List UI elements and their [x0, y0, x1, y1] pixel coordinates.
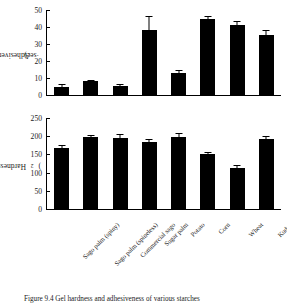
- adhesiveness-y-tick-mark: [46, 44, 50, 45]
- x-axis-label-corn: Corn: [217, 221, 231, 235]
- error-bar-cap: [87, 80, 94, 81]
- bar-sago-palm-spineless: [83, 137, 98, 209]
- adhesiveness-y-tick-mark: [46, 10, 50, 11]
- adhesiveness-bar-group: [47, 10, 281, 95]
- hardness-y-tick-mark: [46, 118, 50, 119]
- bar-cell: [78, 10, 104, 95]
- bar-sago-palm-spiny: [54, 87, 69, 96]
- bar-cell: [78, 118, 104, 209]
- x-axis-category-labels: Sago palm (spiny)Sago palm (spineless)Co…: [46, 221, 281, 283]
- adhesiveness-x-tick-mark: [238, 92, 239, 96]
- error-bar: [178, 71, 179, 73]
- bar-potato: [171, 73, 186, 95]
- bar-cell: [166, 118, 192, 209]
- adhesiveness-y-tick-label: 30: [34, 40, 42, 49]
- bar-cell: [137, 118, 163, 209]
- adhesiveness-x-tick-mark: [180, 92, 181, 96]
- error-bar: [61, 85, 62, 86]
- error-bar-cap: [58, 84, 65, 85]
- bar-cell: [107, 10, 133, 95]
- hardness-y-tick-mark: [46, 154, 50, 155]
- hardness-y-tick-mark: [46, 209, 50, 210]
- adhesiveness-y-tick-mark: [46, 95, 50, 96]
- adhesiveness-y-tick-mark: [46, 61, 50, 62]
- adhesiveness-x-tick-mark: [63, 92, 64, 96]
- bar-sugar-palm: [142, 142, 157, 209]
- hardness-y-tick-label: 100: [31, 168, 42, 177]
- hardness-y-axis-label: Hardness (gw/cm2): [0, 112, 14, 220]
- bar-cell: [195, 10, 221, 95]
- hardness-y-tick-label: 200: [31, 132, 42, 141]
- hardness-x-tick-mark: [63, 206, 64, 210]
- adhesiveness-plot-area: 01020304050: [46, 10, 281, 96]
- bar-commercial-sago: [113, 138, 128, 209]
- figure-caption: Figure 9.4 Gel hardness and adhesiveness…: [24, 295, 277, 304]
- error-bar: [120, 135, 121, 138]
- bar-potato: [171, 137, 186, 209]
- adhesiveness-y-tick-label: 50: [34, 6, 42, 15]
- bar-kudzu: [259, 139, 274, 209]
- adhesiveness-y-tick-label: 0: [38, 91, 42, 100]
- bar-cell: [166, 10, 192, 95]
- error-bar: [178, 134, 179, 137]
- hardness-y-tick-mark: [46, 191, 50, 192]
- x-axis-label-kudzu: Kudzu: [277, 221, 287, 238]
- adhesiveness-x-tick-mark: [92, 92, 93, 96]
- hardness-y-tick-mark: [46, 136, 50, 137]
- hardness-x-tick-mark: [238, 206, 239, 210]
- hardness-x-tick-mark: [209, 206, 210, 210]
- error-bar-cap: [146, 16, 153, 17]
- error-bar: [90, 136, 91, 137]
- figure-container: Adhesiveness (gw·sec) 01020304050 Hardne…: [0, 0, 287, 307]
- hardness-y-tick-mark: [46, 173, 50, 174]
- adhesiveness-y-tick-label: 20: [34, 57, 42, 66]
- error-bar-cap: [117, 84, 124, 85]
- error-bar-cap: [263, 136, 270, 137]
- bar-commercial-sago: [113, 86, 128, 95]
- error-bar: [149, 140, 150, 142]
- bar-wheat: [230, 25, 245, 95]
- adhesiveness-y-axis-label: Adhesiveness (gw·sec): [0, 4, 14, 106]
- error-bar: [90, 81, 91, 82]
- hardness-y-tick-label: 0: [38, 205, 42, 214]
- bar-corn: [200, 154, 215, 209]
- error-bar-cap: [175, 70, 182, 71]
- error-bar-cap: [263, 30, 270, 31]
- x-axis-label-wheat: Wheat: [247, 221, 264, 238]
- error-bar: [207, 17, 208, 19]
- error-bar: [120, 85, 121, 86]
- x-axis-label-sago-palm-spiny: Sago palm (spiny): [81, 221, 120, 260]
- adhesiveness-x-tick-mark: [121, 92, 122, 96]
- error-bar-cap: [204, 16, 211, 17]
- bar-cell: [224, 10, 250, 95]
- error-bar-cap: [58, 145, 65, 146]
- hardness-x-tick-mark: [150, 206, 151, 210]
- error-bar-cap: [175, 133, 182, 134]
- error-bar-cap: [87, 135, 94, 136]
- error-bar-cap: [234, 165, 241, 166]
- bar-cell: [195, 118, 221, 209]
- adhesiveness-x-tick-mark: [209, 92, 210, 96]
- x-axis-label-potato: Potato: [189, 221, 206, 238]
- hardness-x-tick-mark: [180, 206, 181, 210]
- bar-sugar-palm: [142, 30, 157, 95]
- error-bar: [237, 22, 238, 25]
- adhesiveness-y-tick-label: 10: [34, 74, 42, 83]
- error-bar-cap: [117, 134, 124, 135]
- adhesiveness-y-tick-mark: [46, 27, 50, 28]
- error-bar: [237, 166, 238, 167]
- bar-cell: [224, 118, 250, 209]
- hardness-bar-group: [47, 118, 281, 209]
- hardness-y-tick-label: 250: [31, 114, 42, 123]
- error-bar: [61, 146, 62, 148]
- adhesiveness-x-tick-mark: [150, 92, 151, 96]
- bar-sago-palm-spiny: [54, 148, 69, 209]
- adhesiveness-y-tick-label: 40: [34, 23, 42, 32]
- bar-cell: [49, 10, 75, 95]
- error-bar-cap: [234, 21, 241, 22]
- error-bar-cap: [146, 139, 153, 140]
- bar-cell: [254, 10, 280, 95]
- hardness-x-tick-mark: [121, 206, 122, 210]
- hardness-y-tick-label: 150: [31, 150, 42, 159]
- hardness-chart-panel: Hardness (gw/cm2) 050100150200250: [0, 112, 287, 220]
